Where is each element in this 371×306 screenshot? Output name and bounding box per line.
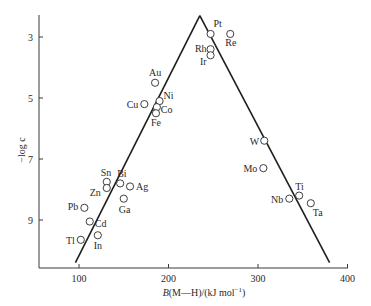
point-label: Fe — [151, 117, 162, 128]
y-tick-label: 3 — [28, 32, 33, 43]
marker-circle-icon — [94, 232, 101, 239]
point-label: Ni — [164, 90, 174, 101]
marker-circle-icon — [77, 236, 84, 243]
x-tick-label: 400 — [340, 273, 355, 284]
point-label: Zn — [90, 187, 101, 198]
marker-circle-icon — [120, 195, 127, 202]
point-label: Pt — [214, 18, 223, 29]
point-label: Ta — [313, 207, 323, 218]
marker-circle-icon — [307, 200, 314, 207]
data-points: PtReRhIrAuCuNiCoFeWMoSnZnBiAgGaPbCdTlInT… — [66, 18, 323, 251]
point-label: Ga — [119, 204, 131, 215]
marker-circle-icon — [296, 192, 303, 199]
marker-circle-icon — [207, 52, 214, 59]
chart-canvas: 3579100200300400 PtReRhIrAuCuNiCoFeWMoSn… — [0, 0, 371, 306]
marker-circle-icon — [103, 184, 110, 191]
y-tick-label: 9 — [28, 215, 33, 226]
marker-circle-icon — [207, 30, 214, 37]
data-point-bi: Bi — [117, 168, 127, 187]
marker-circle-icon — [151, 79, 158, 86]
x-axis-title: B(M—H)/(kJ mol−1) — [163, 286, 246, 299]
volcano-chart: 3579100200300400 PtReRhIrAuCuNiCoFeWMoSn… — [0, 0, 371, 306]
point-label: Cu — [127, 99, 139, 110]
data-point-pt: Pt — [207, 18, 222, 38]
marker-circle-icon — [141, 101, 148, 108]
data-point-ni: Ni — [156, 90, 174, 105]
y-tick-label: 7 — [28, 154, 33, 165]
point-label: In — [94, 240, 102, 251]
y-axis-title: −log c — [16, 137, 27, 163]
point-label: W — [250, 136, 260, 147]
point-label: Cd — [95, 218, 107, 229]
axes: 3579100200300400 — [28, 15, 355, 284]
data-point-cu: Cu — [127, 99, 148, 110]
point-label: Nb — [271, 194, 283, 205]
point-label: Au — [149, 67, 161, 78]
x-tick-label: 300 — [251, 273, 266, 284]
data-point-au: Au — [149, 67, 161, 87]
data-point-re: Re — [225, 30, 237, 48]
point-label: Co — [161, 104, 173, 115]
point-label: Re — [225, 37, 237, 48]
point-label: Tl — [66, 235, 75, 246]
marker-circle-icon — [260, 165, 267, 172]
marker-circle-icon — [152, 110, 159, 117]
point-label: Pb — [68, 201, 79, 212]
data-point-in: In — [94, 232, 102, 252]
data-point-ag: Ag — [126, 181, 148, 192]
marker-circle-icon — [81, 204, 88, 211]
point-label: Rh — [195, 43, 207, 54]
x-tick-label: 100 — [72, 273, 87, 284]
marker-circle-icon — [86, 218, 93, 225]
data-point-cd: Cd — [86, 218, 106, 229]
point-label: Ir — [200, 56, 207, 67]
x-tick-label: 200 — [161, 273, 176, 284]
point-label: Sn — [101, 167, 112, 178]
data-point-tl: Tl — [66, 235, 84, 246]
data-point-sn: Sn — [101, 167, 112, 186]
y-tick-label: 5 — [28, 93, 33, 104]
point-label: Ag — [136, 181, 148, 192]
data-point-mo: Mo — [243, 163, 267, 174]
data-point-nb: Nb — [271, 194, 293, 205]
data-point-pb: Pb — [68, 201, 88, 212]
point-label: Mo — [243, 163, 257, 174]
data-point-ti: Ti — [295, 181, 304, 200]
marker-circle-icon — [286, 195, 293, 202]
marker-circle-icon — [261, 137, 268, 144]
marker-circle-icon — [117, 180, 124, 187]
data-point-ta: Ta — [307, 200, 323, 219]
data-point-zn: Zn — [90, 184, 111, 198]
data-point-ga: Ga — [119, 195, 131, 215]
marker-circle-icon — [126, 183, 133, 190]
data-point-w: W — [250, 136, 268, 147]
point-label: Bi — [117, 168, 127, 179]
point-label: Ti — [295, 181, 304, 192]
